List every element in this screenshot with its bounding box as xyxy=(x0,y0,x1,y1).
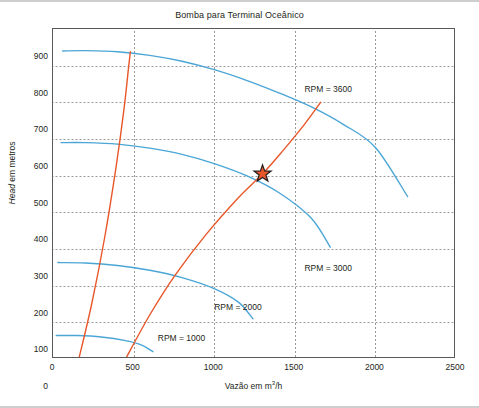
y-axis-label-rest: em metros xyxy=(7,142,17,185)
plot-area: RPM = 3600RPM = 3000RPM = 2000RPM = 1000 xyxy=(52,28,455,358)
series-curve xyxy=(126,102,321,358)
y-tick-label: 0 xyxy=(2,381,48,391)
x-tick-label: 0 xyxy=(32,362,72,372)
x-tick-label: 2500 xyxy=(435,362,475,372)
y-axis-label-italic: Head xyxy=(7,184,17,204)
y-tick-label: 800 xyxy=(2,88,48,98)
x-tick-label: 2000 xyxy=(354,362,394,372)
series-curve xyxy=(61,143,330,248)
y-tick-label: 300 xyxy=(2,271,48,281)
y-axis-label: Head em metros xyxy=(7,113,17,233)
series-curve xyxy=(56,335,153,351)
x-axis-label-prefix: Vazão em m xyxy=(225,381,272,391)
x-axis-label-suffix: /h xyxy=(275,381,282,391)
chart-title: Bomba para Terminal Oceânico xyxy=(0,10,479,20)
series-annotation: RPM = 3000 xyxy=(304,263,352,273)
x-axis-label: Vazão em m3/h xyxy=(52,380,455,391)
y-tick-label: 200 xyxy=(2,308,48,318)
x-tick-label: 1500 xyxy=(274,362,314,372)
x-tick-label: 500 xyxy=(113,362,153,372)
x-tick-label: 1000 xyxy=(193,362,233,372)
chart-figure: Bomba para Terminal Oceânico RPM = 3600R… xyxy=(0,0,479,408)
y-tick-label: 100 xyxy=(2,344,48,354)
series-annotation: RPM = 1000 xyxy=(158,333,206,343)
y-tick-label: 900 xyxy=(2,51,48,61)
top-divider xyxy=(0,0,479,2)
series-annotation: RPM = 3600 xyxy=(304,84,352,94)
y-tick-label: 400 xyxy=(2,234,48,244)
x-axis-ticks: 05001000150020002500 xyxy=(52,362,455,376)
series-annotation: RPM = 2000 xyxy=(214,302,262,312)
series-curve xyxy=(79,52,131,358)
